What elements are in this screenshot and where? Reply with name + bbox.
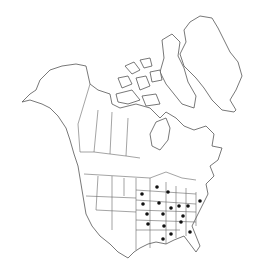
occurrence-dot xyxy=(161,237,165,241)
occurrence-dot xyxy=(161,212,165,216)
occurrence-dot xyxy=(166,190,170,194)
occurrence-dot xyxy=(145,212,149,216)
occurrence-dot xyxy=(162,224,166,228)
occurrence-dot xyxy=(146,222,150,226)
victoria-island xyxy=(116,90,140,104)
occurrence-dot xyxy=(169,232,173,236)
arctic-island-4 xyxy=(136,76,150,90)
arctic-island-1 xyxy=(125,62,140,74)
occurrence-dot xyxy=(186,204,190,208)
occurrence-dot xyxy=(157,201,161,205)
occurrence-dot xyxy=(155,185,159,189)
occurrence-dot xyxy=(177,204,181,208)
occurrence-dot xyxy=(188,230,192,234)
occurrence-dot xyxy=(181,214,185,218)
occurrence-dot xyxy=(179,220,183,224)
occurrence-dot xyxy=(140,192,144,196)
arctic-island-6 xyxy=(142,94,160,106)
arctic-island-2 xyxy=(140,58,152,68)
occurrence-dot xyxy=(169,206,173,210)
occurrence-dot xyxy=(141,202,145,206)
occurrence-dot xyxy=(198,199,202,203)
arctic-island-5 xyxy=(150,70,162,82)
arctic-island-3 xyxy=(118,76,132,88)
distribution-map xyxy=(0,0,265,275)
